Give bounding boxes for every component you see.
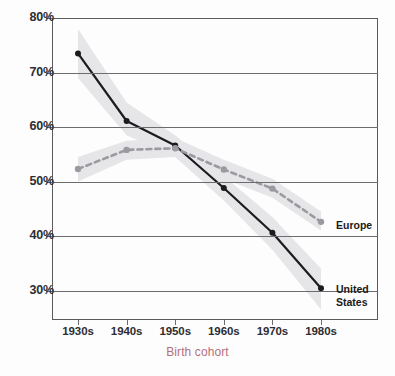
gridline [52,291,378,292]
gridline [52,182,378,183]
y-tick-label: 40% [30,228,54,242]
y-tick-label: 50% [30,174,54,188]
x-tick-label: 1980s [305,325,336,337]
y-tick-label: 70% [30,65,54,79]
series-label-europe: Europe [336,219,372,232]
x-tick-label: 1940s [111,325,142,337]
series-label-united-states-line2: States [336,296,368,308]
gridline [52,73,378,74]
x-tick-label: 1970s [257,325,288,337]
series-label-united-states: UnitedStates [336,283,369,308]
y-tick-label: 30% [30,283,54,297]
gridline [52,236,378,237]
y-tick-label: 60% [30,119,54,133]
x-axis-title: Birth cohort [0,345,395,359]
chart-figure: 80%70%60%50%40%30% 1930s1940s1950s1960s1… [0,0,395,376]
x-tick-label: 1960s [208,325,239,337]
x-tick-label: 1950s [159,325,190,337]
gridline [52,127,378,128]
plot-frame [52,18,378,320]
x-tick-label: 1930s [62,325,93,337]
series-label-united-states-line1: United [336,283,369,295]
y-tick-label: 80% [30,10,54,24]
